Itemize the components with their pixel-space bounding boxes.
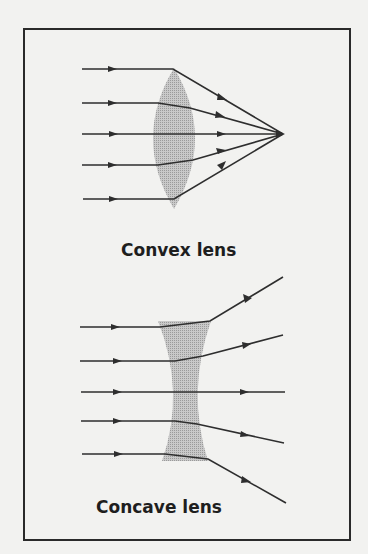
arrow-icon [113,358,122,364]
focal-point-marker [276,130,285,138]
arrow-icon [243,294,252,303]
concave-lens-label: Concave lens [96,497,222,517]
concave-ray-5 [82,454,286,503]
arrow-icon [241,476,251,483]
arrow-icon [240,431,250,437]
arrow-icon [114,451,123,457]
concave-lens-shape [158,321,211,461]
arrow-icon [109,196,118,202]
lens-diagram [0,0,368,554]
arrow-icon [240,389,249,395]
arrow-icon [108,100,117,106]
arrow-icon [217,131,226,137]
convex-lens-shape [153,68,195,209]
arrow-icon [108,162,117,168]
arrow-icon [108,66,117,72]
arrow-icon [111,324,120,330]
concave-ray-1 [80,277,283,327]
arrow-icon [109,131,118,137]
convex-lens-label: Convex lens [121,240,236,260]
arrow-icon [215,111,225,118]
arrow-icon [113,389,122,395]
arrow-icon [113,418,122,424]
arrow-icon [217,93,227,100]
